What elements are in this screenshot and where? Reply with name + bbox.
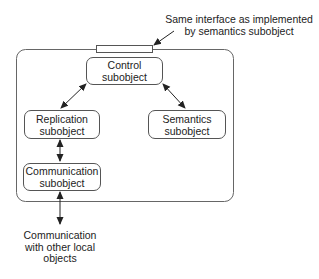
control-label-2: subobject <box>102 71 147 83</box>
control-label-1: Control <box>108 59 142 71</box>
interface-tab <box>97 46 153 53</box>
communication-label-2: subobject <box>40 177 85 189</box>
communication-label-1: Communication <box>26 165 99 177</box>
control-subobject: Control subobject <box>86 57 163 85</box>
external-line-1: Communication <box>10 230 110 242</box>
annotation-line-2: by semantics subobject <box>160 26 318 38</box>
external-line-3: objects <box>10 253 110 265</box>
semantics-subobject: Semantics subobject <box>148 110 226 139</box>
semantics-label-1: Semantics <box>162 113 211 125</box>
arrow-control-semantics <box>163 84 185 108</box>
semantics-label-2: subobject <box>165 125 210 137</box>
arrow-control-replication <box>61 84 86 108</box>
annotation-line-1: Same interface as implemented <box>160 14 318 26</box>
interface-annotation: Same interface as implemented by semanti… <box>160 14 318 37</box>
communication-subobject: Communication subobject <box>23 163 101 191</box>
replication-label-1: Replication <box>36 113 88 125</box>
replication-label-2: subobject <box>40 125 85 137</box>
replication-subobject: Replication subobject <box>24 110 100 139</box>
external-communication-label: Communication with other local objects <box>10 230 110 265</box>
